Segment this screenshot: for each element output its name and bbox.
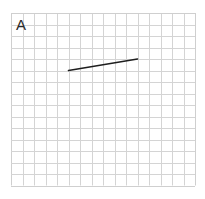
grid-canvas <box>0 0 205 199</box>
grid-lines <box>11 13 196 187</box>
panel-label: A <box>16 17 26 32</box>
